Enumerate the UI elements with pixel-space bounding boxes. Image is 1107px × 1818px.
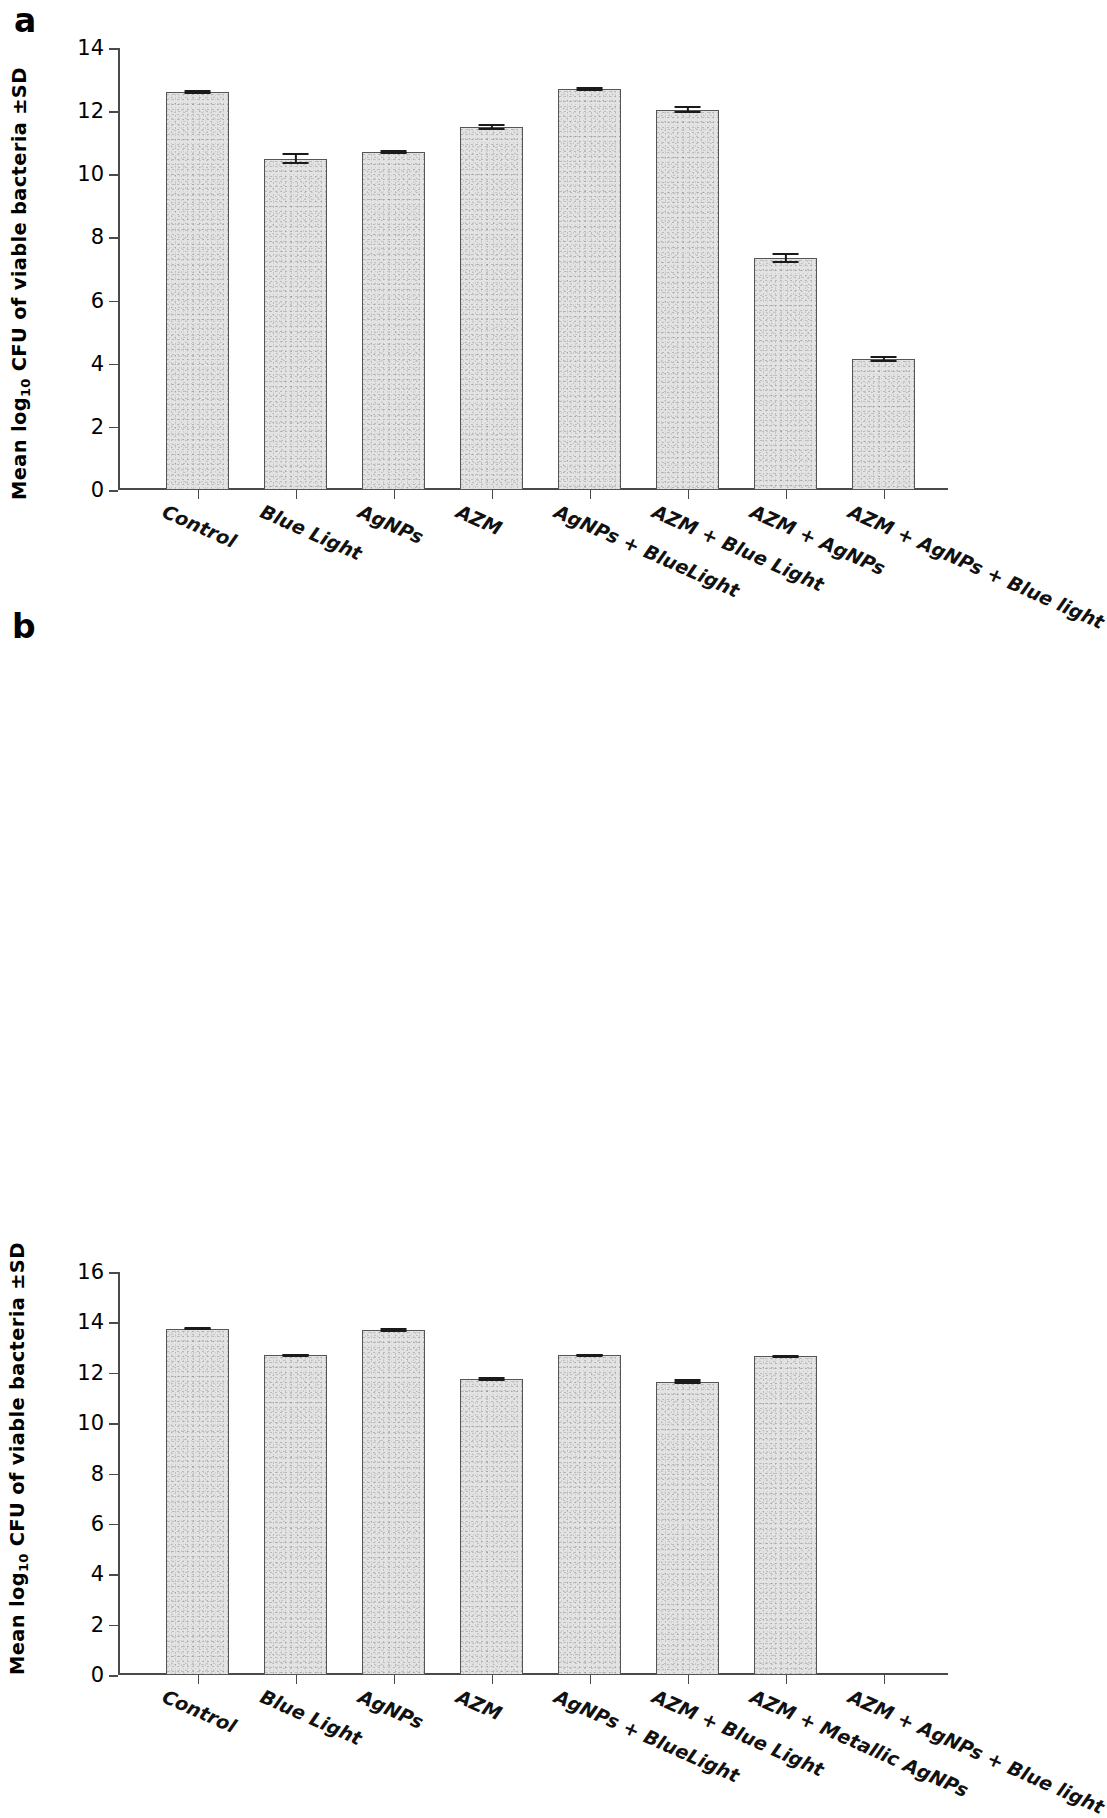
y-tick-label: 0 — [91, 478, 104, 502]
panel-b-plot-area: 0246810121416 ControlBlue LightAgNPsAZMA… — [118, 1272, 948, 1675]
error-bar-cap-bottom — [478, 1379, 504, 1381]
x-axis-category-label: AgNPs — [355, 1685, 427, 1733]
error-bar — [576, 87, 602, 91]
y-tick-label: 10 — [77, 162, 104, 186]
y-tick-label: 16 — [77, 1260, 104, 1284]
bar-slot — [264, 1272, 327, 1675]
error-bar — [282, 1354, 308, 1357]
bar[interactable] — [852, 359, 915, 490]
error-bar-cap-bottom — [870, 360, 896, 362]
y-tick — [109, 1524, 118, 1526]
bar-slot — [362, 48, 425, 490]
bar[interactable] — [656, 1382, 719, 1675]
x-axis-category-label: Control — [159, 1685, 240, 1737]
y-tick-label: 2 — [91, 414, 104, 438]
y-tick — [109, 427, 118, 429]
panel-a-plot-area: 02468101214 ControlBlue LightAgNPsAZMAgN… — [118, 48, 948, 490]
error-bar-cap-bottom — [184, 92, 210, 94]
y-tick — [109, 1272, 118, 1274]
error-bar-cap-bottom — [380, 1330, 406, 1332]
error-bar-cap-bottom — [674, 1382, 700, 1384]
error-bar — [772, 1355, 798, 1358]
error-bar-cap-bottom — [282, 1354, 308, 1356]
x-axis-category-label: AgNPs — [355, 500, 427, 548]
y-tick — [109, 237, 118, 239]
panel-a: a Mean log10 CFU of viable bacteria ±SD … — [0, 0, 964, 628]
error-bar-cap-bottom — [380, 152, 406, 154]
bar-slot — [558, 1272, 621, 1675]
y-axis-label-subscript: 10 — [16, 1553, 31, 1572]
x-axis-category-label: AZM — [453, 1685, 505, 1724]
y-tick — [109, 1574, 118, 1576]
x-axis-category-label: Blue Light — [257, 1685, 365, 1749]
panel-a-y-axis-label: Mean log10 CFU of viable bacteria ±SD — [8, 67, 31, 500]
error-bar — [478, 1377, 504, 1381]
error-bar — [674, 1379, 700, 1384]
error-bar-cap-top — [282, 153, 308, 155]
error-bar — [576, 1354, 602, 1357]
x-axis-category-label: Control — [159, 500, 240, 552]
y-tick-label: 4 — [91, 1562, 104, 1586]
y-tick-label: 8 — [91, 1461, 104, 1485]
x-axis-category-label: AZM — [453, 500, 505, 539]
y-tick — [109, 48, 118, 50]
bar[interactable] — [754, 258, 817, 490]
error-bar-cap-bottom — [576, 89, 602, 91]
bar-slot — [362, 1272, 425, 1675]
y-tick — [109, 174, 118, 176]
y-tick — [109, 364, 118, 366]
y-axis-label-subscript: 10 — [18, 378, 33, 397]
y-tick — [109, 490, 118, 492]
panel-a-bar-group — [118, 48, 948, 490]
bar[interactable] — [362, 152, 425, 490]
error-bar — [380, 1328, 406, 1332]
error-bar — [380, 150, 406, 154]
bar[interactable] — [264, 159, 327, 491]
error-bar-cap-bottom — [772, 261, 798, 263]
x-axis-category-label: Blue Light — [257, 500, 365, 564]
error-bar-cap-top — [674, 106, 700, 108]
y-tick — [109, 1474, 118, 1476]
panel-b-x-label-group: ControlBlue LightAgNPsAZMAgNPs + BlueLig… — [118, 1675, 948, 1818]
error-bar — [478, 124, 504, 130]
bar[interactable] — [460, 1379, 523, 1675]
bar[interactable] — [362, 1330, 425, 1675]
bar[interactable] — [460, 127, 523, 490]
error-bar — [282, 153, 308, 164]
y-tick-label: 12 — [77, 1360, 104, 1384]
y-tick — [109, 301, 118, 303]
y-axis-label-prefix: Mean log — [8, 397, 31, 500]
y-tick-label: 10 — [77, 1411, 104, 1435]
error-bar-cap-bottom — [282, 162, 308, 164]
y-tick-label: 6 — [91, 1511, 104, 1535]
error-bar — [870, 356, 896, 362]
bar-slot — [754, 48, 817, 490]
bar-slot — [852, 1272, 915, 1675]
bar[interactable] — [558, 1355, 621, 1675]
bar[interactable] — [754, 1356, 817, 1675]
x-axis-category-label: AgNPs + BlueLight — [551, 1685, 743, 1787]
y-tick-label: 14 — [77, 36, 104, 60]
y-tick — [109, 1675, 118, 1677]
bar[interactable] — [166, 92, 229, 490]
bar[interactable] — [166, 1329, 229, 1675]
y-axis-label-suffix: CFU of viable bacteria ±SD — [8, 67, 31, 378]
bar[interactable] — [264, 1355, 327, 1675]
panel-b-bar-group — [118, 1272, 948, 1675]
panel-b: b Mean log10 CFU of viable bacteria ±SD … — [0, 600, 964, 1255]
error-bar — [772, 253, 798, 264]
y-tick — [109, 1322, 118, 1324]
bar-slot — [656, 1272, 719, 1675]
y-tick-label: 4 — [91, 351, 104, 375]
error-bar-cap-top — [478, 124, 504, 126]
bar-slot — [264, 48, 327, 490]
error-bar-cap-bottom — [478, 128, 504, 130]
y-tick-label: 2 — [91, 1612, 104, 1636]
bar-slot — [166, 48, 229, 490]
bar[interactable] — [558, 89, 621, 490]
panel-b-letter: b — [12, 610, 36, 643]
y-tick — [109, 1373, 118, 1375]
bar[interactable] — [656, 110, 719, 490]
x-axis-category-label: AgNPs + BlueLight — [551, 500, 743, 602]
y-tick — [109, 1625, 118, 1627]
